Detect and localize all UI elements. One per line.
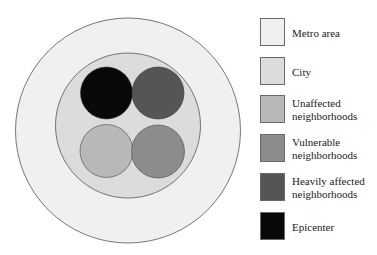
legend-item-city: City bbox=[260, 57, 377, 87]
nested-circles-diagram bbox=[0, 0, 250, 255]
legend-label: Heavily affected neighborhoods bbox=[292, 173, 377, 203]
legend-swatch-epicenter bbox=[260, 212, 285, 240]
legend-label: Metro area bbox=[292, 18, 377, 48]
legend-swatch-unaffected bbox=[260, 95, 285, 123]
legend-label: Vulnerable neighborhoods bbox=[292, 134, 377, 164]
legend-swatch-metro-area bbox=[260, 18, 285, 46]
legend-item-vulnerable: Vulnerable neighborhoods bbox=[260, 134, 377, 164]
legend-item-heavily-affected: Heavily affected neighborhoods bbox=[260, 173, 377, 203]
legend-swatch-heavily-affected bbox=[260, 173, 285, 201]
epicenter-circle bbox=[81, 67, 133, 119]
legend-label: City bbox=[292, 57, 377, 87]
vulnerable-circle bbox=[132, 125, 185, 178]
heavily-affected-circle bbox=[132, 67, 184, 119]
legend-item-unaffected: Unaffected neighborhoods bbox=[260, 95, 377, 125]
city-circle bbox=[56, 53, 201, 198]
unaffected-circle bbox=[80, 125, 133, 178]
legend-swatch-vulnerable bbox=[260, 134, 285, 162]
legend-label: Unaffected neighborhoods bbox=[292, 95, 377, 125]
legend-item-epicenter: Epicenter bbox=[260, 212, 377, 242]
legend-item-metro-area: Metro area bbox=[260, 18, 377, 48]
legend-label: Epicenter bbox=[292, 212, 377, 242]
legend-swatch-city bbox=[260, 57, 285, 85]
